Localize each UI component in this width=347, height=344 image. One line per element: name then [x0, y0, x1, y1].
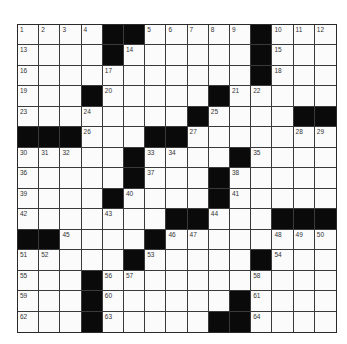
- grid-cell[interactable]: [82, 230, 103, 250]
- grid-cell[interactable]: [315, 312, 336, 332]
- grid-cell[interactable]: 23: [18, 107, 39, 127]
- grid-cell[interactable]: [82, 250, 103, 270]
- grid-cell[interactable]: [103, 230, 124, 250]
- grid-cell[interactable]: [166, 189, 187, 209]
- grid-cell[interactable]: [209, 230, 230, 250]
- grid-cell[interactable]: [188, 250, 209, 270]
- grid-cell[interactable]: 31: [39, 148, 60, 168]
- grid-cell[interactable]: 58: [251, 271, 272, 291]
- grid-cell[interactable]: 60: [103, 291, 124, 311]
- grid-cell[interactable]: [294, 168, 315, 188]
- grid-cell[interactable]: [188, 66, 209, 86]
- grid-cell[interactable]: [145, 86, 166, 106]
- grid-cell[interactable]: [272, 86, 293, 106]
- grid-cell[interactable]: 8: [209, 25, 230, 45]
- grid-cell[interactable]: 40: [124, 189, 145, 209]
- grid-cell[interactable]: [124, 312, 145, 332]
- grid-cell[interactable]: [251, 209, 272, 229]
- grid-cell[interactable]: [251, 189, 272, 209]
- grid-cell[interactable]: 13: [18, 45, 39, 65]
- grid-cell[interactable]: 22: [251, 86, 272, 106]
- grid-cell[interactable]: [145, 271, 166, 291]
- grid-cell[interactable]: [103, 148, 124, 168]
- grid-cell[interactable]: [251, 230, 272, 250]
- grid-cell[interactable]: [82, 148, 103, 168]
- grid-cell[interactable]: [166, 45, 187, 65]
- grid-cell[interactable]: [166, 312, 187, 332]
- grid-cell[interactable]: [294, 271, 315, 291]
- grid-cell[interactable]: [188, 45, 209, 65]
- grid-cell[interactable]: [145, 66, 166, 86]
- grid-cell[interactable]: 15: [272, 45, 293, 65]
- grid-cell[interactable]: [272, 148, 293, 168]
- grid-cell[interactable]: 39: [18, 189, 39, 209]
- grid-cell[interactable]: [230, 271, 251, 291]
- grid-cell[interactable]: [188, 168, 209, 188]
- grid-cell[interactable]: 59: [18, 291, 39, 311]
- grid-cell[interactable]: [166, 66, 187, 86]
- grid-cell[interactable]: 54: [272, 250, 293, 270]
- grid-cell[interactable]: [315, 291, 336, 311]
- grid-cell[interactable]: [230, 209, 251, 229]
- grid-cell[interactable]: [124, 86, 145, 106]
- grid-cell[interactable]: [103, 127, 124, 147]
- grid-cell[interactable]: 42: [18, 209, 39, 229]
- grid-cell[interactable]: [124, 107, 145, 127]
- grid-cell[interactable]: 56: [103, 271, 124, 291]
- grid-cell[interactable]: 10: [272, 25, 293, 45]
- grid-cell[interactable]: [230, 66, 251, 86]
- grid-cell[interactable]: [315, 250, 336, 270]
- grid-cell[interactable]: 52: [39, 250, 60, 270]
- grid-cell[interactable]: [315, 148, 336, 168]
- grid-cell[interactable]: [209, 45, 230, 65]
- grid-cell[interactable]: [124, 291, 145, 311]
- grid-cell[interactable]: 5: [145, 25, 166, 45]
- grid-cell[interactable]: [60, 271, 81, 291]
- grid-cell[interactable]: [315, 86, 336, 106]
- grid-cell[interactable]: [124, 209, 145, 229]
- grid-cell[interactable]: [60, 189, 81, 209]
- grid-cell[interactable]: 29: [315, 127, 336, 147]
- grid-cell[interactable]: [39, 168, 60, 188]
- grid-cell[interactable]: [272, 107, 293, 127]
- grid-cell[interactable]: [60, 168, 81, 188]
- grid-cell[interactable]: [272, 291, 293, 311]
- grid-cell[interactable]: [272, 271, 293, 291]
- grid-cell[interactable]: 2: [39, 25, 60, 45]
- grid-cell[interactable]: 45: [60, 230, 81, 250]
- grid-cell[interactable]: [230, 45, 251, 65]
- grid-cell[interactable]: [230, 107, 251, 127]
- grid-cell[interactable]: [230, 230, 251, 250]
- grid-cell[interactable]: [294, 45, 315, 65]
- grid-cell[interactable]: [145, 312, 166, 332]
- grid-cell[interactable]: [209, 291, 230, 311]
- grid-cell[interactable]: [124, 230, 145, 250]
- grid-cell[interactable]: [188, 86, 209, 106]
- grid-cell[interactable]: [294, 148, 315, 168]
- grid-cell[interactable]: [60, 66, 81, 86]
- grid-cell[interactable]: 44: [209, 209, 230, 229]
- grid-cell[interactable]: [39, 66, 60, 86]
- grid-cell[interactable]: 1: [18, 25, 39, 45]
- grid-cell[interactable]: 16: [18, 66, 39, 86]
- grid-cell[interactable]: [60, 86, 81, 106]
- grid-cell[interactable]: [294, 312, 315, 332]
- grid-cell[interactable]: 25: [209, 107, 230, 127]
- grid-cell[interactable]: [82, 209, 103, 229]
- grid-cell[interactable]: [294, 86, 315, 106]
- grid-cell[interactable]: [230, 127, 251, 147]
- grid-cell[interactable]: [39, 312, 60, 332]
- grid-cell[interactable]: 3: [60, 25, 81, 45]
- grid-cell[interactable]: [294, 250, 315, 270]
- grid-cell[interactable]: 11: [294, 25, 315, 45]
- grid-cell[interactable]: 41: [230, 189, 251, 209]
- grid-cell[interactable]: 53: [145, 250, 166, 270]
- grid-cell[interactable]: [166, 107, 187, 127]
- grid-cell[interactable]: [39, 86, 60, 106]
- grid-cell[interactable]: [209, 271, 230, 291]
- grid-cell[interactable]: 51: [18, 250, 39, 270]
- grid-cell[interactable]: [166, 86, 187, 106]
- grid-cell[interactable]: [60, 291, 81, 311]
- grid-cell[interactable]: [166, 250, 187, 270]
- grid-cell[interactable]: [188, 148, 209, 168]
